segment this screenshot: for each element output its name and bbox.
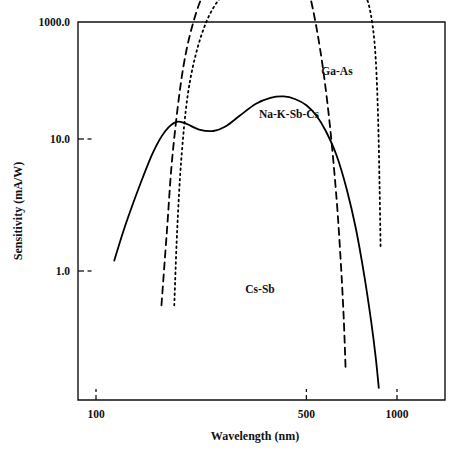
x-axis-ticks: [96, 389, 397, 400]
y-tick-label: 10.0: [50, 133, 70, 145]
series-labels: Cs-SbNa-K-Sb-CsGa-As: [245, 65, 353, 295]
curve-ga-as: [174, 0, 380, 305]
plot-frame: [78, 22, 445, 400]
y-tick-label: 1000.0: [38, 16, 70, 28]
x-tick-label: 1000: [386, 408, 409, 420]
x-axis-tick-labels: 1005001000: [87, 408, 408, 420]
series-label-ga-as: Ga-As: [321, 65, 353, 77]
y-axis-title: Sensitivity (mA/W): [11, 162, 25, 260]
chart-canvas: 1.010.01000.0 1005001000 Cs-SbNa-K-Sb-Cs…: [0, 0, 461, 457]
x-tick-label: 500: [298, 408, 316, 420]
x-tick-label: 100: [87, 408, 105, 420]
y-axis-tick-labels: 1.010.01000.0: [38, 16, 70, 277]
photocathode-sensitivity-figure: 1.010.01000.0 1005001000 Cs-SbNa-K-Sb-Cs…: [0, 0, 461, 457]
data-curves: [114, 0, 380, 388]
curve-cs-sb: [161, 0, 345, 369]
y-axis-ticks: [78, 139, 92, 271]
series-label-na-k-sb-cs: Na-K-Sb-Cs: [259, 108, 320, 120]
series-label-cs-sb: Cs-Sb: [245, 283, 274, 295]
x-axis-title: Wavelength (nm): [211, 429, 299, 443]
y-tick-label: 1.0: [56, 265, 71, 277]
